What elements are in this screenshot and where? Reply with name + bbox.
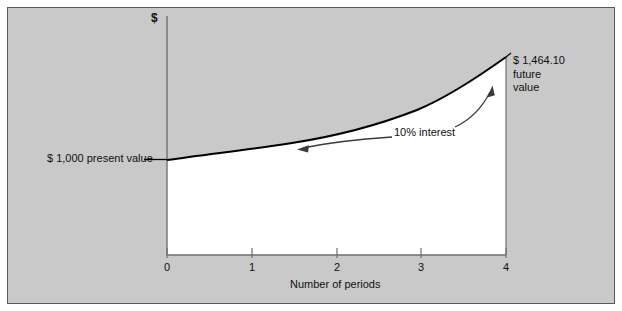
x-tick-label-0: 0	[157, 261, 177, 273]
future-value-line-3: value	[513, 81, 565, 95]
x-axis-title: Number of periods	[290, 278, 381, 291]
present-value-label: $ 1,000 present value	[47, 152, 153, 165]
y-axis-title: $	[151, 12, 158, 25]
future-value-label: $ 1,464.10 future value	[513, 54, 565, 95]
future-value-leader-line	[506, 53, 511, 57]
interest-rate-label: 10% interest	[394, 126, 455, 139]
area-under-curve	[167, 57, 506, 255]
x-tick-label-3: 3	[411, 261, 431, 273]
x-tick-label-4: 4	[496, 261, 516, 273]
figure-container: $ $ 1,000 present value $ 1,464.10 futur…	[0, 0, 622, 311]
x-tick-label-1: 1	[242, 261, 262, 273]
future-value-amount: $ 1,464.10	[513, 54, 565, 68]
future-value-line-2: future	[513, 68, 565, 82]
x-tick-label-2: 2	[327, 261, 347, 273]
